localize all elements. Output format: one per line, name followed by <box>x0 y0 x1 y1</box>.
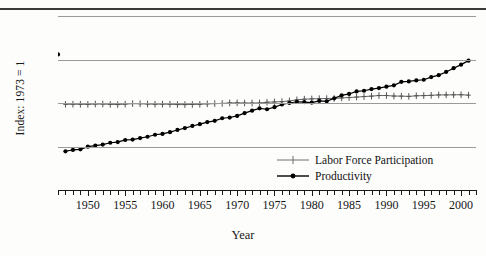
dot-marker <box>399 80 403 84</box>
dot-marker <box>384 85 388 89</box>
chart-legend: Labor Force ParticipationProductivity <box>276 152 433 184</box>
dot-marker <box>153 133 157 137</box>
plus-marker <box>444 92 448 99</box>
plus-marker <box>160 101 164 108</box>
x-axis-tick <box>252 190 253 195</box>
plus-marker <box>466 92 470 99</box>
plus-marker <box>145 101 149 108</box>
x-axis-tick <box>267 190 268 195</box>
gridline <box>58 60 476 61</box>
plus-marker <box>354 94 358 101</box>
x-axis-tick <box>357 190 358 195</box>
dot-marker <box>220 116 224 120</box>
x-axis-tick <box>454 190 455 195</box>
dot-marker <box>58 52 60 56</box>
legend-item: Productivity <box>276 168 433 184</box>
x-axis-tick <box>155 190 156 195</box>
dot-marker <box>190 124 194 128</box>
dot-marker <box>354 89 358 93</box>
plus-marker <box>63 101 67 108</box>
dot-marker <box>228 115 232 119</box>
x-axis-tick <box>200 190 201 196</box>
x-axis-tick <box>110 190 111 195</box>
dot-marker <box>332 96 336 100</box>
dot-marker <box>78 147 82 151</box>
dot-marker <box>422 78 426 82</box>
dot-marker <box>63 149 67 153</box>
dot-marker <box>392 83 396 87</box>
dot-marker <box>116 140 120 144</box>
x-axis-tick <box>163 190 164 196</box>
x-axis-tick-label: 2000 <box>439 198 483 213</box>
plus-marker <box>451 92 455 99</box>
x-axis-tick <box>461 190 462 196</box>
plus-marker <box>399 93 403 100</box>
x-axis-tick <box>379 190 380 195</box>
x-axis-tick <box>103 190 104 195</box>
plus-marker <box>459 91 463 98</box>
x-axis-tick <box>439 190 440 195</box>
x-axis-tick <box>349 190 350 196</box>
x-axis-tick <box>386 190 387 196</box>
x-axis-tick <box>394 190 395 195</box>
dot-marker <box>138 136 142 140</box>
x-axis-tick <box>192 190 193 195</box>
plus-marker <box>78 101 82 108</box>
x-axis-tick <box>65 190 66 195</box>
plus-marker <box>362 93 366 100</box>
x-axis-tick <box>289 190 290 195</box>
dot-marker <box>437 73 441 77</box>
dot-marker <box>108 141 112 145</box>
x-axis-tick <box>58 190 59 195</box>
dot-marker <box>235 114 239 118</box>
dot-marker <box>444 70 448 74</box>
dot-marker <box>160 132 164 136</box>
dot-marker <box>131 137 135 141</box>
dot-marker <box>257 106 261 110</box>
legend-label: Productivity <box>315 169 372 183</box>
figure-top-rule <box>0 8 486 10</box>
x-axis-tick <box>327 190 328 195</box>
dot-marker <box>377 86 381 90</box>
plus-marker <box>101 101 105 108</box>
x-axis-tick <box>245 190 246 195</box>
dot-marker <box>459 63 463 67</box>
dot-marker <box>265 107 269 111</box>
dot-marker <box>429 75 433 79</box>
x-axis-tick <box>177 190 178 195</box>
plus-marker <box>377 92 381 99</box>
x-axis-tick <box>207 190 208 195</box>
figure-container: Index: 1973 = 1 2.01.51.0.5.0 1950195519… <box>0 0 486 256</box>
x-axis-tick <box>364 190 365 195</box>
dot-marker <box>175 128 179 132</box>
plus-marker <box>71 101 75 108</box>
x-axis-tick <box>170 190 171 195</box>
x-axis-tick <box>185 190 186 195</box>
plus-marker <box>198 101 202 108</box>
plus-marker <box>168 101 172 108</box>
x-axis-tick <box>297 190 298 195</box>
x-axis-tick <box>282 190 283 195</box>
x-axis-tick <box>133 190 134 195</box>
dot-marker <box>407 79 411 83</box>
x-axis-tick <box>476 190 477 195</box>
x-axis-tick <box>237 190 238 196</box>
plus-marker <box>429 92 433 99</box>
x-axis-tick <box>409 190 410 195</box>
dot-marker <box>71 148 75 152</box>
dot-marker <box>414 78 418 82</box>
plus-marker <box>369 93 373 100</box>
series-labor-force-participation <box>63 91 470 107</box>
x-axis-tick <box>334 190 335 195</box>
y-axis-label: Index: 1973 = 1 <box>14 38 26 158</box>
x-axis-tick <box>118 190 119 195</box>
dot-marker <box>369 87 373 91</box>
dot-marker <box>272 105 276 109</box>
plus-marker <box>276 153 310 167</box>
x-axis-tick <box>222 190 223 195</box>
plus-marker <box>414 92 418 99</box>
x-axis-tick <box>431 190 432 195</box>
dot-marker <box>347 92 351 96</box>
dot-marker <box>250 109 254 113</box>
dot-marker <box>213 119 217 123</box>
